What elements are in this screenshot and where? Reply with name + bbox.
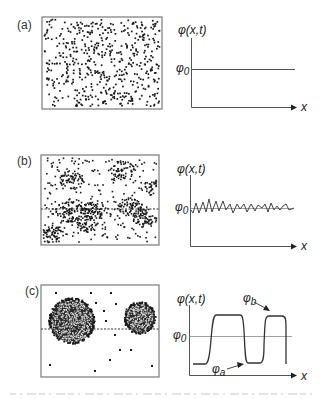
particles-b xyxy=(43,157,158,243)
phi0-label-a: φ0 xyxy=(176,61,189,77)
phi-profile-c xyxy=(193,315,286,364)
caption-residue xyxy=(0,390,324,399)
x-axis-label-a: x xyxy=(301,100,307,114)
panel-label-c: (c) xyxy=(25,284,39,298)
figure-canvas xyxy=(0,0,324,399)
panel-b xyxy=(41,155,297,250)
phi-profile-b xyxy=(191,199,294,213)
phib-arrow-head xyxy=(263,305,270,311)
panel-c xyxy=(41,285,297,379)
graph-c xyxy=(190,302,298,379)
x-axis-label-b: x xyxy=(301,239,307,253)
panel-label-b: (b) xyxy=(17,154,32,168)
particle-box-b xyxy=(41,155,159,245)
graph-a xyxy=(192,38,298,111)
x-axis-label-c: x xyxy=(301,369,307,383)
phib-label-c: φb xyxy=(243,291,256,307)
y-axis-label-c: φ(x,t) xyxy=(177,292,206,306)
panel-a xyxy=(42,17,297,111)
x-axis-arrow-c xyxy=(291,373,297,379)
phi0-label-b: φ0 xyxy=(175,200,188,216)
panel-label-a: (a) xyxy=(17,18,32,32)
y-axis-label-a: φ(x,t) xyxy=(178,23,207,37)
phi0-label-c: φ0 xyxy=(173,328,186,344)
phia-label-c: φa xyxy=(212,362,225,378)
graph-b xyxy=(191,175,298,250)
y-axis-label-b: φ(x,t) xyxy=(177,162,206,176)
phia-arrow-head xyxy=(237,362,244,368)
x-axis-arrow-a xyxy=(291,105,297,111)
x-axis-arrow-b xyxy=(291,244,297,250)
particles-c xyxy=(48,292,156,372)
particles-a xyxy=(44,19,161,107)
